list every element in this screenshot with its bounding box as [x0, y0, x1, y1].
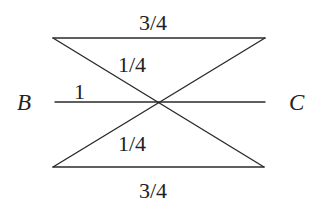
left-baseline-label: 1 [74, 79, 85, 104]
hourglass-diagram: 3/4 1/4 1 1/4 3/4 B C [0, 0, 322, 210]
lower-diagonal-label: 1/4 [118, 131, 146, 156]
point-b-label: B [17, 90, 31, 115]
top-segment-label: 3/4 [139, 10, 167, 35]
point-c-label: C [289, 90, 305, 115]
bottom-segment-label: 3/4 [139, 178, 167, 203]
upper-diagonal-label: 1/4 [118, 52, 146, 77]
